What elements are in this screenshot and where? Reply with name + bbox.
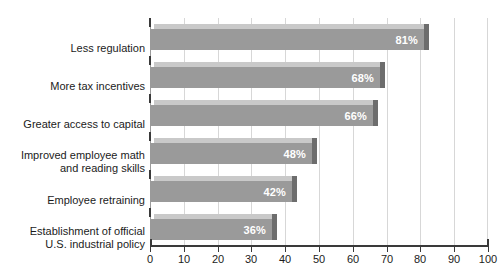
gridline-30	[251, 18, 252, 245]
x-tick	[319, 245, 320, 252]
category-label: Greater access to capital	[4, 118, 150, 131]
bar-chart: Less regulation More tax incentives Grea…	[0, 0, 501, 270]
bar-value-label: 48%	[283, 148, 306, 159]
bar-value-label: 81%	[395, 34, 418, 45]
x-tick-label: 20	[212, 253, 224, 265]
x-tick	[251, 245, 252, 252]
x-tick-label: 0	[147, 253, 153, 265]
x-tick	[387, 245, 388, 252]
gridline-20	[218, 18, 219, 245]
x-tick	[150, 245, 151, 252]
x-tick-label: 10	[178, 253, 190, 265]
x-tick-label: 60	[347, 253, 359, 265]
bar-value-label: 36%	[243, 224, 266, 235]
bar-value-label: 66%	[344, 110, 367, 121]
category-label: Employee retraining	[4, 194, 150, 207]
x-tick	[184, 245, 185, 252]
category-tick	[149, 94, 151, 103]
bar-employee-retraining: 42%	[150, 181, 292, 202]
x-tick-label: 80	[414, 253, 426, 265]
bar-value-label: 42%	[263, 186, 286, 197]
category-axis-labels: Less regulation More tax incentives Grea…	[0, 18, 150, 245]
x-tick	[488, 245, 489, 252]
x-tick-label: 40	[279, 253, 291, 265]
x-tick	[454, 245, 455, 252]
bar-less-regulation: 81%	[150, 29, 424, 50]
category-label: More tax incentives	[4, 80, 150, 93]
gridline-60	[353, 18, 354, 245]
category-label: Improved employee math and reading skill…	[4, 149, 150, 175]
x-tick	[420, 245, 421, 252]
x-tick-label: 30	[245, 253, 257, 265]
gridline-90	[454, 18, 455, 245]
plot-area: 81% 68% 66% 48% 42% 36%	[150, 18, 488, 245]
x-tick	[353, 245, 354, 252]
gridline-40	[285, 18, 286, 245]
category-tick	[149, 208, 151, 217]
gridline-70	[387, 18, 388, 245]
bar-establishment-of-official-us-industrial-policy: 36%	[150, 219, 272, 240]
x-tick	[285, 245, 286, 252]
gridline-80	[420, 18, 421, 245]
bar-value-label: 68%	[351, 72, 374, 83]
bar-more-tax-incentives: 68%	[150, 67, 380, 88]
x-tick-label: 100	[479, 253, 497, 265]
gridline-100	[487, 18, 488, 245]
x-tick-label: 90	[448, 253, 460, 265]
x-tick-label: 70	[381, 253, 393, 265]
category-label: Less regulation	[4, 42, 150, 55]
x-tick	[218, 245, 219, 252]
gridline-50	[319, 18, 320, 245]
bar-greater-access-to-capital: 66%	[150, 105, 373, 126]
category-label: Establishment of official U.S. industria…	[4, 225, 150, 251]
category-tick	[149, 170, 151, 179]
category-tick	[149, 132, 151, 141]
category-tick	[149, 56, 151, 65]
bar-improved-employee-math-and-reading-skills: 48%	[150, 143, 312, 164]
gridline-10	[184, 18, 185, 245]
x-tick-label: 50	[313, 253, 325, 265]
category-tick	[149, 18, 151, 27]
